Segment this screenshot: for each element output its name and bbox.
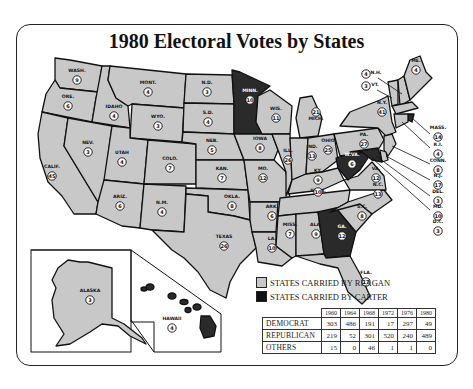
vote-cell: 301 — [360, 330, 379, 342]
vote-cell: 240 — [398, 330, 417, 342]
electoral-vote-count: 12 — [339, 233, 346, 239]
electoral-vote-count: 45 — [49, 173, 56, 179]
vote-cell: 17 — [379, 318, 398, 330]
electoral-vote-count: 9 — [75, 77, 79, 83]
state-abbr-label: TEXAS — [216, 234, 233, 239]
state-abbr-label: ARIZ. — [113, 194, 127, 199]
electoral-vote-count: 25 — [325, 147, 332, 153]
electoral-vote-count: 4 — [170, 325, 174, 331]
state-abbr-label: GA. — [337, 224, 346, 229]
electoral-vote-count: 7 — [288, 231, 292, 237]
party-label: REPUBLICAN — [263, 330, 322, 342]
vote-cell: 489 — [417, 330, 436, 342]
state-abbr-label: WIS. — [270, 106, 282, 111]
vote-cell: 46 — [360, 342, 379, 354]
state-abbr-label: IDAHO — [106, 104, 123, 109]
state-abbr-label: MO. — [258, 166, 268, 171]
party-label: OTHERS — [263, 342, 322, 354]
state-abbr-label: MONT. — [140, 80, 157, 85]
state-hawaii[interactable] — [141, 284, 216, 338]
state-abbr-label: N.H. — [370, 70, 381, 75]
electoral-vote-count: 7 — [168, 165, 172, 171]
electoral-vote-count: 41 — [379, 109, 386, 115]
state-abbr-label: N.J. — [433, 173, 442, 178]
carter-swatch — [256, 291, 267, 302]
electoral-vote-count: 12 — [373, 175, 380, 181]
state-wash[interactable] — [55, 58, 102, 92]
vote-cell: 303 — [322, 318, 341, 330]
electoral-vote-count: 3 — [436, 228, 440, 234]
year-header: 1976 — [398, 309, 417, 318]
electoral-vote-count: 11 — [273, 115, 280, 121]
electoral-vote-count: 3 — [88, 297, 92, 303]
state-alaska[interactable] — [52, 260, 146, 346]
electoral-vote-count: 4 — [364, 71, 368, 77]
electoral-vote-count: 6 — [350, 161, 354, 167]
state-abbr-label: OKLA. — [224, 194, 240, 199]
vote-cell: 191 — [360, 318, 379, 330]
electoral-vote-count: 4 — [414, 67, 418, 73]
vote-cell: 1 — [379, 342, 398, 354]
vote-cell: 297 — [398, 318, 417, 330]
electoral-vote-count: 3 — [205, 89, 209, 95]
state-abbr-label: UTAH — [115, 150, 129, 155]
state-abbr-label: CONN. — [430, 158, 447, 163]
state-abbr-label: KAN. — [216, 166, 229, 171]
vote-cell: 49 — [417, 318, 436, 330]
party-label: DEMOCRAT — [263, 318, 322, 330]
state-abbr-label: LA. — [268, 236, 277, 241]
vote-cell: 52 — [341, 330, 360, 342]
state-abbr-label: S.D. — [203, 110, 214, 115]
state-abbr-label: MICH. — [308, 116, 323, 121]
state-abbr-label: W.VA. — [344, 152, 359, 157]
electoral-vote-count: 8 — [230, 203, 234, 209]
electoral-vote-count: 10 — [315, 189, 322, 195]
electoral-vote-count: 4 — [206, 119, 210, 125]
electoral-vote-count: 17 — [435, 182, 442, 188]
electoral-vote-count: 3 — [156, 123, 160, 129]
state-wis[interactable] — [256, 90, 292, 134]
year-header: 1968 — [360, 309, 379, 318]
table-row: OTHERS 15 0 46 1 1 0 — [263, 342, 436, 354]
electoral-vote-count: 9 — [316, 177, 320, 183]
legend-reagan-label: STATES CARRIED BY REAGAN — [270, 278, 390, 288]
vote-cell: 0 — [417, 342, 436, 354]
state-abbr-label: VA. — [372, 166, 381, 171]
year-header: 1980 — [417, 309, 436, 318]
electoral-vote-count: 14 — [435, 134, 442, 140]
state-abbr-label: OHIO — [321, 138, 334, 143]
electoral-vote-count: 7 — [220, 175, 224, 181]
electoral-vote-count: 3 — [364, 83, 368, 89]
vote-cell: 486 — [341, 318, 360, 330]
state-abbr-label: N.M. — [156, 200, 168, 205]
vote-cell: 15 — [322, 342, 341, 354]
electoral-vote-count: 6 — [118, 203, 122, 209]
state-abbr-label: N.D. — [201, 80, 212, 85]
electoral-vote-count: 27 — [361, 141, 368, 147]
electoral-vote-count: 6 — [270, 213, 274, 219]
state-abbr-label: FLA. — [360, 270, 372, 275]
state-abbr-label: DEL. — [432, 189, 444, 194]
vote-cell: 0 — [341, 342, 360, 354]
state-colo[interactable] — [144, 140, 196, 184]
electoral-vote-count: 21 — [313, 109, 320, 115]
vote-cell: 219 — [322, 330, 341, 342]
state-ri[interactable] — [408, 114, 414, 122]
electoral-vote-count: 26 — [221, 243, 228, 249]
state-abbr-label: ALASKA — [80, 288, 101, 293]
electoral-vote-count: 5 — [210, 147, 214, 153]
state-abbr-label: MINN. — [242, 88, 258, 93]
electoral-vote-count: 4 — [112, 113, 116, 119]
state-abbr-label: ORE. — [62, 94, 75, 99]
results-table: 1960 1964 1968 1972 1976 1980 DEMOCRAT 3… — [262, 308, 436, 354]
state-abbr-label: IOWA — [253, 136, 267, 141]
vote-cell: 1 — [398, 342, 417, 354]
vote-cell: 520 — [379, 330, 398, 342]
state-abbr-label: COLO. — [162, 156, 178, 161]
table-row: REPUBLICAN 219 52 301 520 240 489 — [263, 330, 436, 342]
state-abbr-label: WYO. — [151, 114, 165, 119]
electoral-vote-count: 13 — [309, 153, 316, 159]
state-abbr-label: MD. — [433, 204, 443, 209]
state-abbr-label: HAWAII — [162, 316, 181, 321]
state-abbr-label: KY. — [314, 168, 322, 173]
